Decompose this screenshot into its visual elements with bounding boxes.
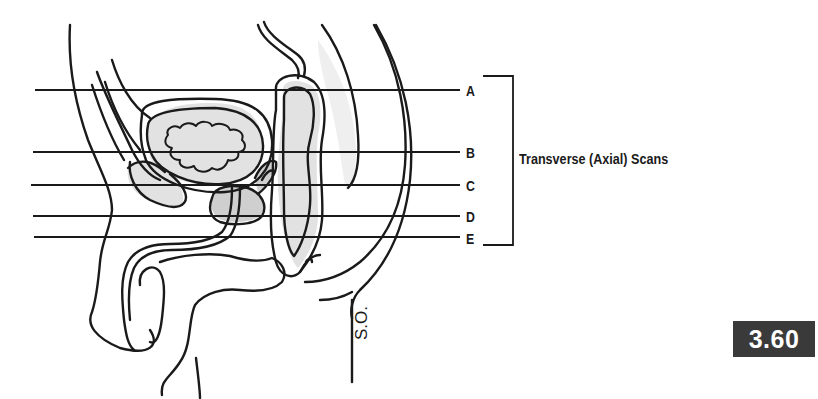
anatomy-sagittal-illustration	[0, 0, 818, 399]
posterior-body-wall	[351, 25, 411, 318]
scan-label-d: D	[466, 209, 475, 224]
scan-label-e: E	[466, 231, 474, 246]
scan-bracket	[483, 76, 513, 245]
scrotum	[160, 254, 284, 395]
figure-number-badge: 3.60	[733, 321, 815, 357]
scan-label-a: A	[466, 83, 475, 98]
artist-initials: S.O.	[352, 306, 372, 340]
scan-label-b: B	[466, 145, 475, 160]
scan-label-c: C	[466, 178, 475, 193]
bracket-caption: Transverse (Axial) Scans	[519, 150, 668, 167]
